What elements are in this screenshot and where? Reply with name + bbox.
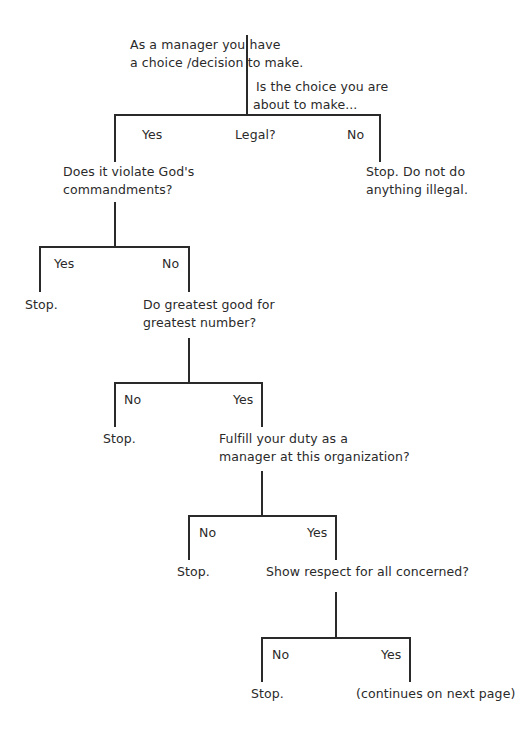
commandments-stop: Stop. xyxy=(25,297,58,313)
respect-question: Show respect for all concerned? xyxy=(266,564,469,580)
root-question-line-2: about to make... xyxy=(253,97,357,113)
greatest-good-no-drop-line xyxy=(114,382,116,427)
duty-no-label: No xyxy=(199,525,216,541)
respect-no-drop-line xyxy=(261,637,263,682)
intro-line-1: As a manager you have xyxy=(130,37,281,53)
commandments-no-label: No xyxy=(162,256,179,272)
greatest-good-question-line-2: greatest number? xyxy=(143,315,256,331)
duty-branch-line xyxy=(188,515,336,517)
decision-tree-diagram: As a manager you have a choice /decision… xyxy=(0,0,515,746)
commandments-question-line-2: commandments? xyxy=(63,182,173,198)
illegal-stop-line-1: Stop. Do not do xyxy=(366,164,465,180)
greatest-good-yes-drop-line xyxy=(261,382,263,427)
respect-no-label: No xyxy=(272,647,289,663)
root-question-line-1: Is the choice you are xyxy=(256,79,388,95)
greatest-good-yes-label: Yes xyxy=(233,392,253,408)
greatest-good-question-line-1: Do greatest good for xyxy=(143,297,275,313)
legal-no-label: No xyxy=(347,127,364,143)
legal-yes-drop-line xyxy=(114,114,116,162)
commandments-yes-label: Yes xyxy=(54,256,74,272)
duty-stop: Stop. xyxy=(177,564,210,580)
illegal-stop-line-2: anything illegal. xyxy=(366,182,468,198)
greatest-good-stop: Stop. xyxy=(103,431,136,447)
respect-stem-line xyxy=(335,592,337,638)
duty-yes-drop-line xyxy=(335,515,337,560)
respect-yes-label: Yes xyxy=(381,647,401,663)
commandments-question-line-1: Does it violate God's xyxy=(63,164,194,180)
greatest-good-no-label: No xyxy=(124,392,141,408)
duty-stem-line xyxy=(261,471,263,516)
commandments-stem-line xyxy=(114,202,116,247)
commandments-yes-drop-line xyxy=(39,246,41,292)
duty-yes-label: Yes xyxy=(307,525,327,541)
greatest-good-stem-line xyxy=(188,338,190,383)
duty-no-drop-line xyxy=(188,515,190,560)
intro-line-2: a choice /decision to make. xyxy=(130,55,303,71)
commandments-branch-line xyxy=(39,246,189,248)
legal-question: Legal? xyxy=(235,127,276,143)
duty-question-line-2: manager at this organization? xyxy=(219,449,410,465)
legal-no-drop-line xyxy=(379,114,381,162)
continues-next-page: (continues on next page) xyxy=(356,686,515,702)
greatest-good-branch-line xyxy=(114,382,262,384)
root-stem-line xyxy=(246,35,248,115)
respect-branch-line xyxy=(261,637,410,639)
respect-stop: Stop. xyxy=(251,686,284,702)
commandments-no-drop-line xyxy=(188,246,190,292)
legal-yes-label: Yes xyxy=(142,127,162,143)
duty-question-line-1: Fulfill your duty as a xyxy=(219,431,348,447)
respect-yes-drop-line xyxy=(409,637,411,682)
legal-branch-line xyxy=(114,114,380,116)
